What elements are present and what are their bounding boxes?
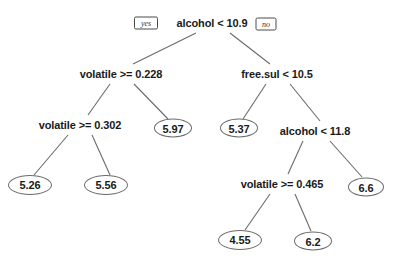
- branch-tag-yes: yes: [134, 17, 158, 30]
- edge-rrl-to-leaf-62: [295, 194, 311, 231]
- leaf-node-597: 5.97: [154, 119, 192, 138]
- leaf-node-66: 6.6: [348, 178, 384, 197]
- leaf-node-62: 6.2: [294, 232, 332, 251]
- edge-rr-to-rrl: [288, 141, 303, 174]
- edge-ll-to-leaf-556: [92, 135, 110, 175]
- split-node-volatile-0228: volatile >= 0.228: [80, 68, 163, 80]
- split-node-alcohol-118: alcohol < 11.8: [280, 125, 350, 137]
- decision-tree-figure: yes no alcohol < 10.9 volatile >= 0.228 …: [0, 0, 393, 269]
- edge-rrl-to-leaf-455: [245, 194, 270, 230]
- edge-right-to-rightright: [290, 84, 320, 121]
- edge-left-to-leftleft: [88, 84, 110, 115]
- leaf-node-537: 5.37: [220, 119, 258, 138]
- leaf-node-556: 5.56: [84, 175, 128, 195]
- split-node-root: alcohol < 10.9: [176, 17, 247, 29]
- edge-left-to-leaf-597: [134, 84, 168, 119]
- leaf-node-526: 5.26: [8, 175, 52, 195]
- edge-rr-to-leaf-66: [330, 141, 362, 177]
- branch-tag-no: no: [256, 18, 277, 31]
- split-node-freesul-105: free.sul < 10.5: [241, 68, 313, 80]
- split-node-volatile-0302: volatile >= 0.302: [39, 119, 122, 131]
- edge-root-to-left: [133, 33, 196, 64]
- edge-right-to-leaf-537: [243, 84, 266, 119]
- edge-ll-to-leaf-526: [34, 135, 68, 175]
- edge-root-to-right: [230, 33, 270, 64]
- leaf-node-455: 4.55: [218, 230, 262, 250]
- split-node-volatile-0465: volatile >= 0.465: [241, 178, 324, 190]
